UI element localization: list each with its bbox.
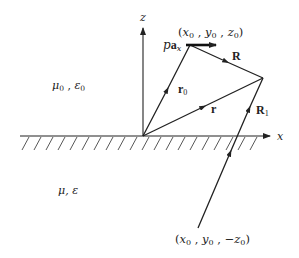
z-axis-label: z — [139, 11, 146, 24]
vector-R1 — [198, 78, 263, 228]
image-method-diagram: z x (x0 , y0 , z0) pax R r0 r R1 μ0 , ε0… — [0, 0, 299, 258]
vector-r — [143, 78, 263, 136]
x-axis-label: x — [277, 130, 284, 143]
ground-hatching — [22, 137, 257, 150]
lower-medium-label: μ, ε — [58, 184, 78, 197]
label-R: R — [232, 49, 241, 63]
upper-medium-label: μ0 , ε0 — [52, 79, 85, 93]
label-r: r — [211, 102, 217, 116]
vector-R — [190, 45, 263, 78]
source-point-label: (x0 , y0 , z0) — [178, 25, 243, 40]
label-r0: r0 — [178, 82, 187, 97]
image-point-label: (x0 , y0 , −z0) — [175, 232, 250, 247]
dipole-label: pax — [163, 38, 182, 53]
label-R1: R1 — [256, 103, 269, 118]
